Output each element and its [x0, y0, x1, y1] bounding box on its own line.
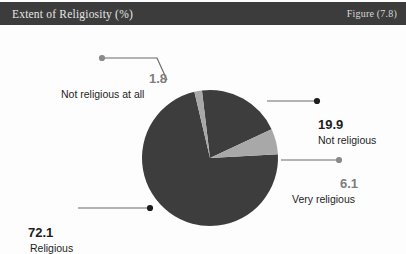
- callout-not-religious: 19.9 Not religious: [318, 118, 376, 146]
- pie-slices: [142, 90, 278, 226]
- callout-very-religious: 6.1 Very religious: [340, 177, 358, 205]
- callout-value-religious: 72.1: [28, 226, 73, 239]
- callout-label-very-religious: Very religious: [292, 193, 358, 205]
- callout-religious: 72.1 Religious: [28, 226, 73, 254]
- callout-value-not-religious: 19.9: [318, 118, 376, 131]
- figure-title: Extent of Religiosity (%): [12, 8, 133, 20]
- callout-not-religious-at-all: 1.8 Not religious at all: [61, 72, 167, 100]
- callout-dot-none-at-all: [99, 55, 105, 61]
- callout-dot-not-religious: [314, 98, 320, 104]
- callout-value-not-religious-at-all: 1.8: [61, 72, 167, 85]
- callout-value-very-religious: 6.1: [340, 177, 358, 190]
- chart-plot-area: 1.8 Not religious at all 19.9 Not religi…: [0, 25, 406, 241]
- callout-label-not-religious: Not religious: [318, 134, 376, 146]
- callout-label-religious: Religious: [30, 242, 73, 254]
- figure-number-label: Figure (7.8): [347, 8, 397, 19]
- callout-label-not-religious-at-all: Not religious at all: [61, 88, 167, 100]
- callout-dot-very-religious: [336, 157, 342, 163]
- callout-dot-religious: [147, 205, 153, 211]
- figure-header-bar: Extent of Religiosity (%) Figure (7.8): [0, 2, 406, 25]
